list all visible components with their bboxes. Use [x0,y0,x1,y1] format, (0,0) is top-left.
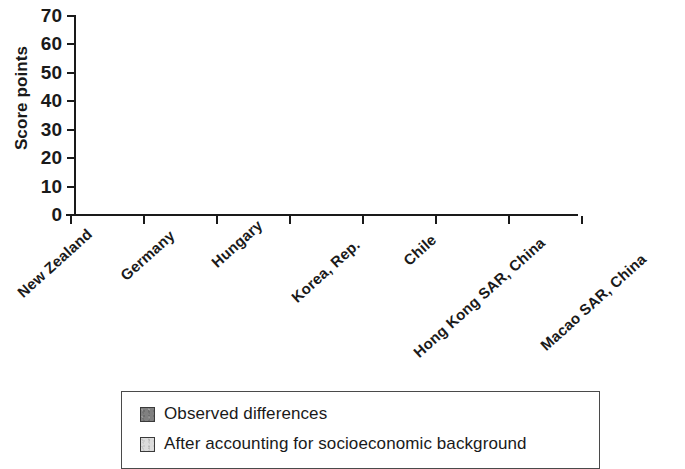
x-axis-tick-mark [216,216,218,224]
x-axis-category-label: Chile [400,231,439,269]
legend-label: Observed differences [164,404,327,424]
dark-gray-swatch-icon [140,407,155,422]
x-axis-category-label: Korea, Rep. [288,236,363,306]
legend-item-observed-differences: Observed differences [140,404,327,424]
x-axis-tick-mark [289,216,291,224]
x-axis-category-label: Hong Kong SAR, China [410,234,548,361]
x-axis-tick-mark [508,216,510,224]
legend-item-after-accounting: After accounting for socioeconomic backg… [140,434,527,454]
x-axis-category-label: Germany [117,227,178,284]
x-axis-tick-mark [362,216,364,224]
light-gray-swatch-icon [140,437,155,452]
x-axis-tick-mark [435,216,437,224]
x-axis-category-label: Hungary [208,216,266,270]
plot-area [0,0,685,216]
x-axis-category-label: New Zealand [14,225,95,300]
x-axis-tick-mark [581,216,583,224]
x-axis-tick-mark [143,216,145,224]
x-axis-category-label: Macao SAR, China [537,250,649,353]
x-axis-tick-mark [70,216,72,224]
legend-label: After accounting for socioeconomic backg… [164,434,527,454]
chart-legend: Observed differences After accounting fo… [121,391,600,469]
